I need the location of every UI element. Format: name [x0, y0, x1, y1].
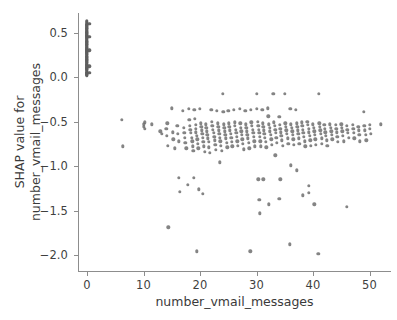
- y-tick-label: 0.5: [49, 26, 68, 40]
- x-tick-mark: [313, 272, 314, 276]
- y-tick-label: 0.0: [49, 70, 68, 84]
- x-tick-label: 10: [136, 278, 151, 292]
- x-axis-label: number_vmail_messages: [78, 294, 391, 309]
- x-tick-label: 0: [83, 278, 90, 292]
- x-tick-label: 40: [306, 278, 321, 292]
- x-tick-label: 30: [249, 278, 264, 292]
- x-tick-mark: [87, 272, 88, 276]
- x-tick-mark: [144, 272, 145, 276]
- plot-area: [78, 13, 391, 271]
- y-tick-mark: [74, 33, 78, 34]
- y-tick-mark: [74, 211, 78, 212]
- y-tick-mark: [74, 122, 78, 123]
- x-tick-label: 50: [362, 278, 377, 292]
- y-axis-label-line-2: number_vmail_messages: [28, 63, 44, 221]
- y-tick-mark: [74, 166, 78, 167]
- y-axis-label: SHAP value for number_vmail_messages: [12, 13, 52, 271]
- y-axis-label-line-1: SHAP value for: [12, 63, 28, 221]
- x-tick-mark: [370, 272, 371, 276]
- y-tick-mark: [74, 77, 78, 78]
- y-tick-mark: [74, 255, 78, 256]
- x-tick-mark: [200, 272, 201, 276]
- y-axis-spine: [78, 13, 79, 272]
- shap-dependence-plot: 01020304050 0.50.0−0.5−1.0−1.5−2.0 numbe…: [0, 0, 397, 320]
- x-tick-mark: [257, 272, 258, 276]
- x-axis-spine: [78, 271, 391, 272]
- x-tick-label: 20: [193, 278, 208, 292]
